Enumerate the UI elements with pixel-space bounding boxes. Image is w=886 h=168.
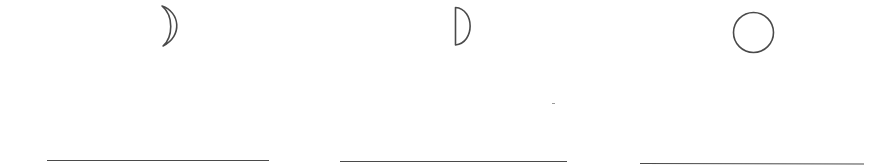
full-moon-circle-icon xyxy=(731,10,777,56)
half-moon-icon xyxy=(453,5,475,49)
answer-line-3[interactable] xyxy=(640,163,864,165)
answer-line-2[interactable] xyxy=(340,161,567,162)
crescent-moon-icon xyxy=(158,4,184,48)
answer-line-1[interactable] xyxy=(47,160,269,161)
stray-mark xyxy=(552,103,555,104)
